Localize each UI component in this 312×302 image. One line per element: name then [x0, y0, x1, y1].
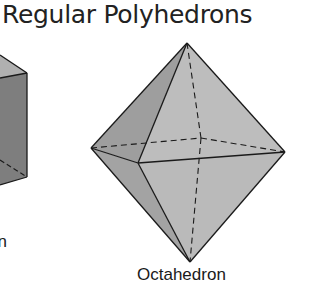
cube-figure	[0, 55, 27, 185]
octahedron-label: Octahedron	[137, 265, 226, 285]
octahedron-figure	[91, 43, 285, 262]
polyhedra-diagram	[0, 0, 312, 302]
cube-label: on	[0, 232, 7, 252]
